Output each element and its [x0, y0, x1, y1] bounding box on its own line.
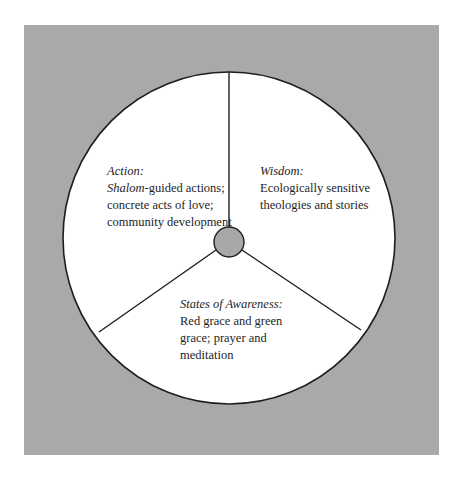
segment-action-line-1: Shalom-guided actions; [107, 180, 232, 197]
segment-action-line-3: community development [107, 214, 232, 231]
segment-action-line-1-text: -guided actions; [145, 181, 225, 195]
segment-wisdom: Wisdom: Ecologically sensitive theologie… [260, 163, 370, 214]
segment-action-line-2: concrete acts of love; [107, 197, 232, 214]
segment-action-heading: Action: [107, 163, 232, 180]
center-hub [214, 227, 244, 257]
segment-awareness-line-3: meditation [180, 347, 283, 364]
segment-wisdom-line-2: theologies and stories [260, 197, 370, 214]
segment-action: Action: Shalom-guided actions; concrete … [107, 163, 232, 231]
segment-awareness-line-2: grace; prayer and [180, 330, 283, 347]
segment-wisdom-line-1: Ecologically sensitive [260, 180, 370, 197]
segment-awareness-line-1: Red grace and green [180, 313, 283, 330]
cycle-diagram [0, 0, 461, 479]
segment-awareness-heading: States of Awareness: [180, 296, 283, 313]
segment-awareness: States of Awareness: Red grace and green… [180, 296, 283, 364]
shalom-term: Shalom [107, 181, 145, 195]
segment-wisdom-heading: Wisdom: [260, 163, 370, 180]
